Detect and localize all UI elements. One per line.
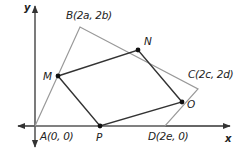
point-o [180,100,185,105]
label-n: N [144,35,152,47]
label-a: A(0, 0) [39,130,74,142]
label-p: P [96,131,103,143]
label-c: C(2c, 2d) [188,68,234,80]
label-m: M [43,70,52,82]
x-axis-label: x [224,133,232,144]
coordinate-diagram: y x A(0, 0) B(2a, 2b) C(2c, 2d) D(2e, 0)… [0,0,240,153]
label-b: B(2a, 2b) [66,9,112,21]
y-axis-label: y [24,2,31,13]
point-p [98,124,103,129]
point-m [56,74,61,79]
label-o: O [187,98,195,110]
quadrilateral-mnop [58,50,182,126]
label-d: D(2e, 0) [148,130,189,142]
point-n [136,48,141,53]
